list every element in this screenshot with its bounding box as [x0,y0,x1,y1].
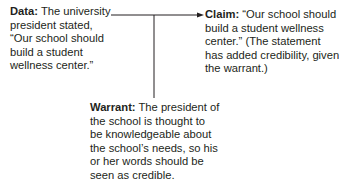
warrant-label: Warrant: [90,101,136,113]
claim-label: Claim: [205,8,239,20]
warrant-box: Warrant: The president of the school is … [90,101,220,183]
claim-box: Claim: “Our school should build a studen… [205,8,341,76]
arrowhead-icon [197,13,204,18]
data-box: Data: The university president stated, “… [10,5,112,73]
data-label: Data: [10,5,38,17]
